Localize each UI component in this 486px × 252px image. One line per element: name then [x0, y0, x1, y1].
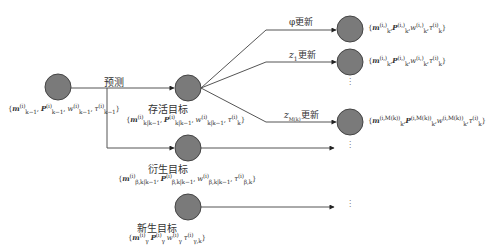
zm-sub: M(k) — [289, 116, 301, 122]
z1-update-label: z1更新 — [289, 48, 316, 62]
update-z1-params: {m(i,)k,P(i,)k,w(i,)k,τ(i)k} — [368, 55, 446, 67]
birth-params: {m(i)γ P(i)γ w(i)γ τ(i)γ,k} — [128, 232, 206, 244]
update-zm-params: {m(i,M(k))k,P(i,M(k))k,w(i,M(k))k,τ(i)k} — [368, 115, 486, 127]
phi-update-label: φ更新 — [289, 15, 313, 28]
ellipsis-updates: ⋮ — [346, 80, 352, 83]
node-update-z1 — [337, 49, 363, 75]
ellipsis-spawn: ⋮ — [346, 143, 352, 146]
z1-tail: 更新 — [298, 50, 316, 60]
node-prior — [45, 74, 71, 100]
prior-params: {m(i)k−1, P(i)k−1, w(i)k−1, τ(i)k−1} — [8, 103, 120, 115]
update-phi-params: {m(i,)k,P(i,)k,w(i,)k,τ(i)k} — [368, 22, 446, 34]
edge-phi-update — [201, 30, 336, 88]
predict-label: 预测 — [104, 74, 124, 89]
zm-tail: 更新 — [301, 110, 319, 120]
zm-update-label: zM(k)更新 — [284, 108, 319, 122]
node-spawn — [175, 135, 201, 161]
ellipsis-birth: ⋮ — [346, 202, 352, 205]
survival-params: {m(i)k|k−1, P(i)k|k−1, w(i)k|k−1, τ(i)k} — [126, 114, 245, 126]
node-birth — [175, 194, 201, 220]
edge-z1-update — [201, 62, 336, 88]
node-update-zm — [337, 109, 363, 135]
node-update-phi — [337, 16, 363, 42]
spawn-params: {m(i)β,k|k−1, P(i)β,k|k−1, w(i)β,k|k−1, … — [118, 173, 256, 185]
node-survival — [175, 75, 201, 101]
